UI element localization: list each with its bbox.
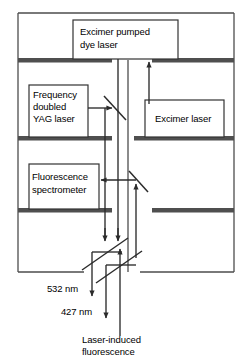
lif-label-line2: fluorescence — [82, 346, 135, 358]
beam-532-label: 532 nm — [14, 283, 78, 295]
lif-label-line1: Laser-induced — [82, 334, 141, 346]
spectrometer-label-line1: Fluorescence — [32, 171, 88, 183]
yag-laser-label-line3: YAG laser — [33, 113, 75, 125]
shelf-low-right — [152, 208, 234, 213]
excimer-laser-label: Excimer laser — [155, 113, 211, 125]
spectrometer-label-line2: spectrometer — [32, 184, 86, 196]
beam-427-label: 427 nm — [26, 306, 92, 318]
mirror-collect-icon — [129, 171, 148, 192]
yag-laser-label-line1: Frequency — [33, 89, 77, 101]
laser-setup-diagram: Excimer pumped dye laser Frequency doubl… — [0, 0, 252, 360]
yag-laser-label-line2: doubled — [33, 101, 66, 113]
dye-laser-label-line1: Excimer pumped — [80, 26, 150, 38]
dye-laser-label-line2: dye laser — [80, 39, 118, 51]
